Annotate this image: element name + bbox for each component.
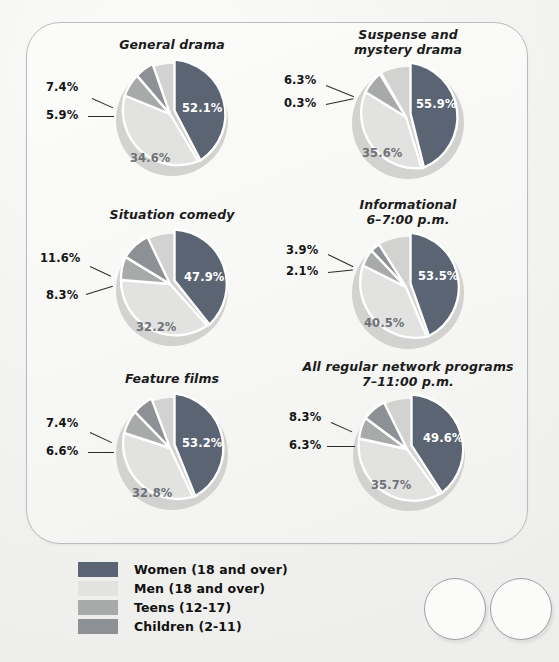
pie-title-line-2: mystery drama <box>288 43 528 58</box>
legend-swatch-teens <box>78 600 118 615</box>
leader-line-teens <box>92 98 113 108</box>
leader-line-children <box>88 452 114 453</box>
leader-line-teens <box>90 266 111 277</box>
pie-chart-informational: Informational 6–7:00 p.m. 53.5% 40.5% 3.… <box>288 198 528 370</box>
pie-title-feature-films: Feature films <box>52 372 292 387</box>
slice-label-children: 6.6% <box>46 444 78 458</box>
slice-label-children: 0.3% <box>284 96 316 110</box>
legend-label-men: Men (18 and over) <box>134 581 265 596</box>
slice-label-men: 35.6% <box>362 146 402 160</box>
pie-title-line-2: 7–11:00 p.m. <box>283 375 533 390</box>
leader-line-children <box>86 286 113 295</box>
pie-title-line-1: General drama <box>52 38 292 53</box>
pie-title-general-drama: General drama <box>52 38 292 53</box>
slice-label-children: 2.1% <box>286 264 318 278</box>
legend-item-women[interactable]: Women (18 and over) <box>78 560 338 579</box>
pie-chart-feature-films: Feature films 53.2% 32.8% 7.4% 6.6% <box>52 372 292 544</box>
pie-title-line-1: Feature films <box>52 372 292 387</box>
pie-title-line-1: Situation comedy <box>52 208 292 223</box>
legend-label-children: Children (2-11) <box>134 619 242 634</box>
slice-label-children: 5.9% <box>46 108 78 122</box>
legend-item-men[interactable]: Men (18 and over) <box>78 579 338 598</box>
legend-swatch-women <box>78 562 118 577</box>
blank-circle-left <box>424 578 486 640</box>
legend: Women (18 and over) Men (18 and over) Te… <box>78 560 338 636</box>
legend-label-women: Women (18 and over) <box>134 562 288 577</box>
blank-circle-right <box>490 578 552 640</box>
slice-label-women: 55.9% <box>416 97 456 111</box>
leader-line-children <box>327 446 355 447</box>
pie-title-situation-comedy: Situation comedy <box>52 208 292 223</box>
slice-label-women: 52.1% <box>182 101 222 115</box>
pie-title-informational: Informational 6–7:00 p.m. <box>288 198 528 227</box>
page-background: General drama 52.1% 34.6% 7.4% 5.9% <box>0 0 559 662</box>
pie-title-line-2: 6–7:00 p.m. <box>288 213 528 228</box>
legend-item-children[interactable]: Children (2-11) <box>78 617 338 636</box>
slice-label-teens: 7.4% <box>46 416 78 430</box>
slice-label-women: 53.5% <box>418 269 458 283</box>
pie-title-line-1: Informational <box>288 198 528 213</box>
slice-label-men: 32.8% <box>132 486 172 500</box>
slice-label-men: 35.7% <box>371 478 411 492</box>
pie-title-all-regular-network-programs: All regular network programs 7–11:00 p.m… <box>283 360 533 389</box>
legend-label-teens: Teens (12-17) <box>134 600 231 615</box>
slice-label-women: 49.6% <box>423 431 463 445</box>
legend-swatch-men <box>78 581 118 596</box>
leader-line-teens <box>90 432 112 443</box>
pie-chart-general-drama: General drama 52.1% 34.6% 7.4% 5.9% <box>52 38 292 210</box>
pie-title-line-1: Suspense and <box>288 28 528 43</box>
slice-label-men: 40.5% <box>364 316 404 330</box>
slice-label-children: 8.3% <box>46 288 78 302</box>
slice-label-men: 32.2% <box>136 320 176 334</box>
legend-item-teens[interactable]: Teens (12-17) <box>78 598 338 617</box>
leader-line-children <box>88 116 114 117</box>
pie-chart-suspense-mystery-drama: Suspense and mystery drama 55.9% 35.6% 6… <box>288 28 528 200</box>
pie-chart-situation-comedy: Situation comedy 47.9% 32.2% 11.6% 8.3% <box>52 208 292 380</box>
pie-title-suspense-mystery-drama: Suspense and mystery drama <box>288 28 528 57</box>
slice-label-children: 6.3% <box>289 438 321 452</box>
slice-label-teens: 8.3% <box>289 410 321 424</box>
leader-line-teens <box>331 422 352 432</box>
slice-label-teens: 11.6% <box>40 251 80 265</box>
pie-title-line-1: All regular network programs <box>283 360 533 375</box>
slice-label-teens: 6.3% <box>284 73 316 87</box>
slice-label-teens: 7.4% <box>46 80 78 94</box>
slice-label-women: 47.9% <box>184 270 224 284</box>
pie-chart-all-regular-network-programs: All regular network programs 7–11:00 p.m… <box>283 360 523 532</box>
slice-label-teens: 3.9% <box>286 243 318 257</box>
slice-label-men: 34.6% <box>130 151 170 165</box>
slice-label-women: 53.2% <box>182 436 222 450</box>
legend-swatch-children <box>78 619 118 634</box>
